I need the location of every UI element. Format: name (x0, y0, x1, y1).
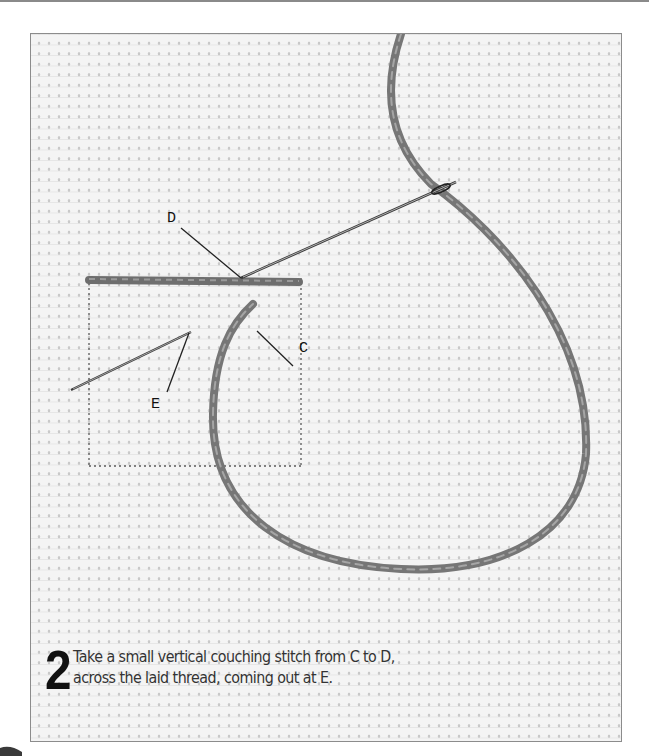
guide-outline (89, 278, 301, 466)
step-number: 2 (45, 646, 71, 694)
caption-line-2: across the laid thread, coming out at E. (73, 668, 395, 689)
step-caption: 2 Take a small vertical couching stitch … (45, 646, 423, 694)
caption-line-1: Take a small vertical couching stitch fr… (73, 647, 395, 668)
stitch-illustration (31, 34, 622, 742)
label-c: C (299, 340, 308, 357)
page-curl-mark (0, 742, 22, 756)
needle-lower (71, 332, 191, 390)
label-e: E (151, 396, 160, 413)
caption-text: Take a small vertical couching stitch fr… (73, 646, 395, 689)
laid-thread (89, 279, 299, 282)
label-d: D (167, 210, 176, 227)
leader-lines (167, 228, 293, 392)
working-thread (213, 34, 586, 569)
needle-upper (241, 182, 456, 278)
top-rule (0, 0, 649, 2)
illustration-panel: D C E 2 Take a small vertical couching s… (30, 33, 622, 742)
